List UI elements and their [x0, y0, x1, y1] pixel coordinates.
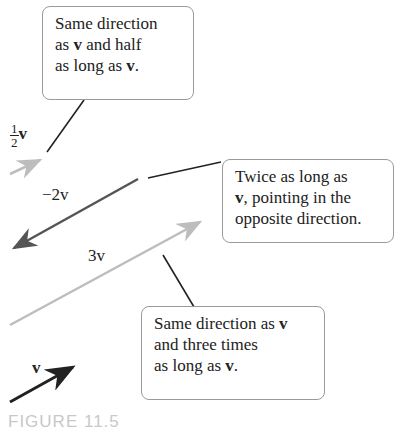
- callout-neg2: Twice as long as v, pointing in the oppo…: [222, 159, 394, 243]
- leader-neg2: [148, 162, 221, 178]
- leader-three: [163, 255, 194, 307]
- vector-neg2-v: [14, 179, 138, 248]
- label-3v: 3v: [88, 246, 105, 266]
- callout-half: Same direction as v and half as long as …: [42, 6, 194, 100]
- callout-three: Same direction as v and three times as l…: [141, 306, 325, 400]
- label-v: v: [32, 358, 41, 378]
- vector-v: [10, 367, 73, 402]
- leader-half: [47, 100, 84, 152]
- label-half-v: 12v: [10, 122, 27, 149]
- label-neg2-v: −2v: [42, 185, 69, 205]
- figure-caption: FIGURE 11.5: [8, 412, 120, 432]
- vector-half-v: [10, 160, 40, 174]
